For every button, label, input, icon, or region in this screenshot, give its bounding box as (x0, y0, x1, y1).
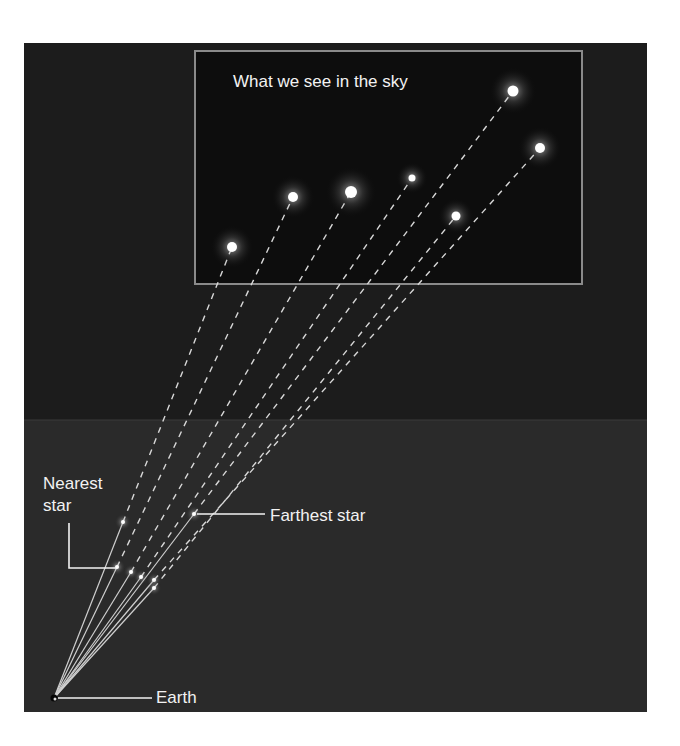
sky-star-icon (396, 162, 428, 194)
sky-star-icon (325, 166, 377, 218)
sky-star-icon (438, 198, 474, 234)
space-star-icon (146, 580, 162, 596)
nearest-star-label: Nearest star (43, 473, 103, 517)
earth-label: Earth (156, 688, 197, 708)
inset-title: What we see in the sky (233, 72, 408, 92)
star-distance-diagram (0, 0, 680, 746)
farthest-star-label: Farthest star (270, 506, 365, 526)
sky-star-icon (271, 175, 315, 219)
sky-star-icon (518, 126, 562, 170)
space-star-icon (114, 513, 132, 531)
earth-icon (51, 695, 58, 702)
sky-star-icon (210, 225, 254, 269)
sky-star-icon (489, 67, 537, 115)
